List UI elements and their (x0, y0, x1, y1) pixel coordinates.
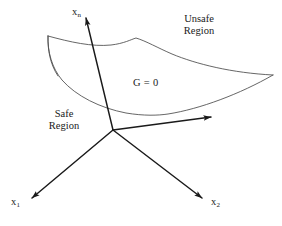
unsafe-region-line1: Unsafe (184, 13, 214, 24)
axis-label-xn-subscript: n (77, 11, 81, 19)
axis-label-xn: xn (72, 6, 81, 19)
surface-left-fold (48, 36, 58, 76)
limit-state-surface-diagram: UnsafeRegion SafeRegion G = 0 xn x1 x2 (0, 0, 282, 226)
limit-state-surface (48, 36, 273, 115)
axis-label-x2-subscript: 2 (216, 201, 220, 209)
axis-x-right (113, 117, 211, 130)
safe-region-line1: Safe (55, 108, 74, 119)
surface-far-edge (48, 36, 273, 75)
surface-equation-label: G = 0 (133, 77, 159, 89)
safe-region-label: SafeRegion (38, 108, 90, 132)
axis-x2 (113, 130, 202, 198)
axis-label-x2: x2 (211, 196, 220, 209)
axis-label-x1: x1 (11, 196, 20, 209)
safe-region-line2: Region (49, 120, 79, 131)
axis-label-x1-subscript: 1 (16, 201, 20, 209)
axis-x1 (32, 130, 113, 198)
axis-xn (86, 18, 113, 130)
unsafe-region-line2: Region (184, 25, 214, 36)
unsafe-region-label: UnsafeRegion (168, 13, 230, 37)
surface-near-edge (48, 36, 273, 115)
